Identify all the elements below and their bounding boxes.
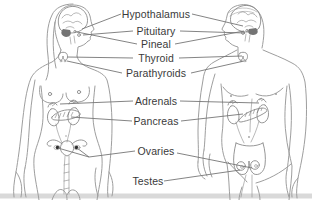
label-pineal: Pineal bbox=[141, 39, 171, 50]
label-parathyroids: Parathyroids bbox=[126, 68, 186, 79]
label-testes: Testes bbox=[133, 176, 164, 187]
labels-layer: HypothalamusPituitaryPinealThyroidParath… bbox=[0, 0, 312, 200]
label-pituitary: Pituitary bbox=[137, 26, 176, 37]
label-ovaries: Ovaries bbox=[138, 146, 175, 157]
label-thyroid: Thyroid bbox=[138, 53, 174, 64]
endocrine-diagram: HypothalamusPituitaryPinealThyroidParath… bbox=[0, 0, 312, 200]
label-pancreas: Pancreas bbox=[133, 116, 178, 127]
label-adrenals: Adrenals bbox=[135, 96, 177, 107]
label-hypothalamus: Hypothalamus bbox=[122, 9, 190, 20]
